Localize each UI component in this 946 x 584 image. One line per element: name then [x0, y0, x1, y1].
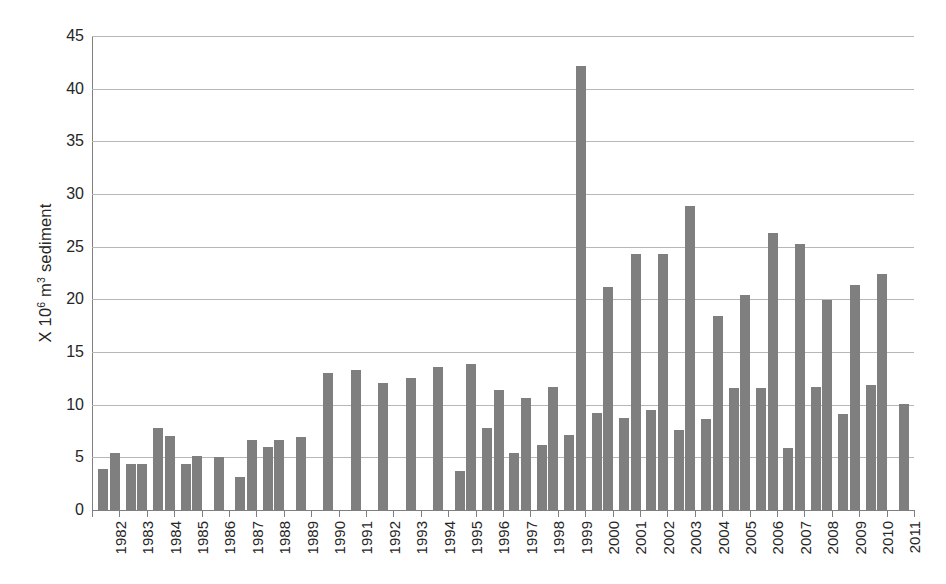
bar-2008-series1 — [811, 387, 821, 510]
x-tick-label-2009: 2009 — [852, 521, 869, 554]
gridline-45 — [92, 36, 914, 37]
bar-2004-series1 — [701, 419, 711, 510]
x-tick-mark-1998 — [530, 511, 531, 517]
bar-2010-series1 — [866, 385, 876, 510]
bar-1983-series1 — [126, 464, 136, 510]
bar-2007-series1 — [783, 448, 793, 510]
y-tick-label-0: 0 — [50, 501, 84, 519]
x-tick-label-2010: 2010 — [879, 521, 896, 554]
x-tick-label-2008: 2008 — [824, 521, 841, 554]
bar-1999-series2 — [576, 66, 586, 511]
gridline-25 — [92, 247, 914, 248]
bar-2001-series2 — [631, 254, 641, 510]
bar-1994-series2 — [433, 367, 443, 510]
x-tick-label-1996: 1996 — [495, 521, 512, 554]
x-tick-mark-1983 — [119, 511, 120, 517]
x-tick-mark-2001 — [613, 511, 614, 517]
x-tick-mark-2000 — [585, 511, 586, 517]
bar-2005-series2 — [740, 295, 750, 510]
bar-1993-series2 — [406, 378, 416, 510]
gridline-20 — [92, 299, 914, 300]
y-tick-label-45: 45 — [50, 27, 84, 45]
gridline-35 — [92, 141, 914, 142]
x-tick-label-1985: 1985 — [194, 521, 211, 554]
bar-2009-series1 — [838, 414, 848, 510]
x-tick-mark-1982 — [92, 511, 93, 517]
x-tick-label-2003: 2003 — [687, 521, 704, 554]
bar-1988-series1 — [263, 447, 273, 510]
x-tick-mark-1987 — [229, 511, 230, 517]
x-tick-label-1982: 1982 — [112, 521, 129, 554]
bar-1995-series2 — [466, 364, 476, 510]
bar-1982-series1 — [98, 469, 108, 510]
bar-1987-series2 — [247, 440, 257, 510]
x-tick-mark-1999 — [558, 511, 559, 517]
x-tick-mark-2010 — [859, 511, 860, 517]
x-tick-mark-1993 — [393, 511, 394, 517]
bar-1982-series2 — [110, 453, 120, 510]
bar-1996-series2 — [494, 390, 504, 510]
plot-area — [92, 36, 914, 510]
y-tick-label-40: 40 — [50, 80, 84, 98]
bar-2006-series2 — [768, 233, 778, 510]
bar-2000-series2 — [603, 287, 613, 510]
bar-chart: X 106 m3 sediment 454035302520151050 198… — [0, 0, 946, 584]
bar-1984-series1 — [153, 428, 163, 510]
bar-1998-series2 — [548, 387, 558, 510]
gridline-15 — [92, 352, 914, 353]
x-tick-label-2007: 2007 — [797, 521, 814, 554]
bar-1990-series2 — [323, 373, 333, 510]
x-tick-label-1989: 1989 — [304, 521, 321, 554]
bar-2000-series1 — [592, 413, 602, 510]
gridline-30 — [92, 194, 914, 195]
y-tick-label-10: 10 — [50, 396, 84, 414]
y-tick-label-35: 35 — [50, 132, 84, 150]
bar-2011-series2 — [899, 404, 909, 510]
bar-1991-series2 — [351, 370, 361, 510]
x-tick-mark-1994 — [421, 511, 422, 517]
x-tick-label-1995: 1995 — [468, 521, 485, 554]
y-tick-label-15: 15 — [50, 343, 84, 361]
y-tick-label-25: 25 — [50, 238, 84, 256]
y-tick-label-20: 20 — [50, 290, 84, 308]
y-axis-tick-labels: 454035302520151050 — [40, 0, 84, 584]
x-tick-mark-end — [914, 511, 915, 517]
x-tick-label-1993: 1993 — [413, 521, 430, 554]
bar-2009-series2 — [850, 285, 860, 510]
bar-2007-series2 — [795, 244, 805, 510]
bar-2010-series2 — [877, 274, 887, 510]
bar-1987-series1 — [235, 477, 245, 510]
x-tick-mark-1988 — [256, 511, 257, 517]
bar-1996-series1 — [482, 428, 492, 510]
x-tick-mark-1986 — [202, 511, 203, 517]
bar-1999-series1 — [564, 435, 574, 510]
x-tick-mark-2005 — [722, 511, 723, 517]
bar-2002-series1 — [646, 410, 656, 510]
x-tick-label-1988: 1988 — [276, 521, 293, 554]
y-tick-label-5: 5 — [50, 448, 84, 466]
x-tick-mark-1991 — [339, 511, 340, 517]
x-tick-mark-1989 — [284, 511, 285, 517]
bar-1997-series2 — [521, 398, 531, 510]
x-tick-mark-2002 — [640, 511, 641, 517]
x-tick-label-2005: 2005 — [742, 521, 759, 554]
bar-2001-series1 — [619, 418, 629, 510]
x-tick-label-2006: 2006 — [769, 521, 786, 554]
x-tick-label-1999: 1999 — [578, 521, 595, 554]
bar-2008-series2 — [822, 300, 832, 510]
x-tick-mark-2004 — [695, 511, 696, 517]
x-tick-label-1994: 1994 — [441, 521, 458, 554]
x-tick-mark-1997 — [503, 511, 504, 517]
x-tick-label-2001: 2001 — [632, 521, 649, 554]
x-tick-label-1990: 1990 — [331, 521, 348, 554]
bar-1989-series2 — [296, 437, 306, 510]
gridline-40 — [92, 89, 914, 90]
bar-2002-series2 — [658, 254, 668, 510]
bar-1986-series2 — [214, 457, 224, 510]
x-tick-label-1983: 1983 — [139, 521, 156, 554]
bar-1992-series2 — [378, 383, 388, 510]
bar-2005-series1 — [729, 388, 739, 510]
x-tick-mark-2006 — [750, 511, 751, 517]
x-tick-label-1986: 1986 — [221, 521, 238, 554]
x-tick-mark-2007 — [777, 511, 778, 517]
